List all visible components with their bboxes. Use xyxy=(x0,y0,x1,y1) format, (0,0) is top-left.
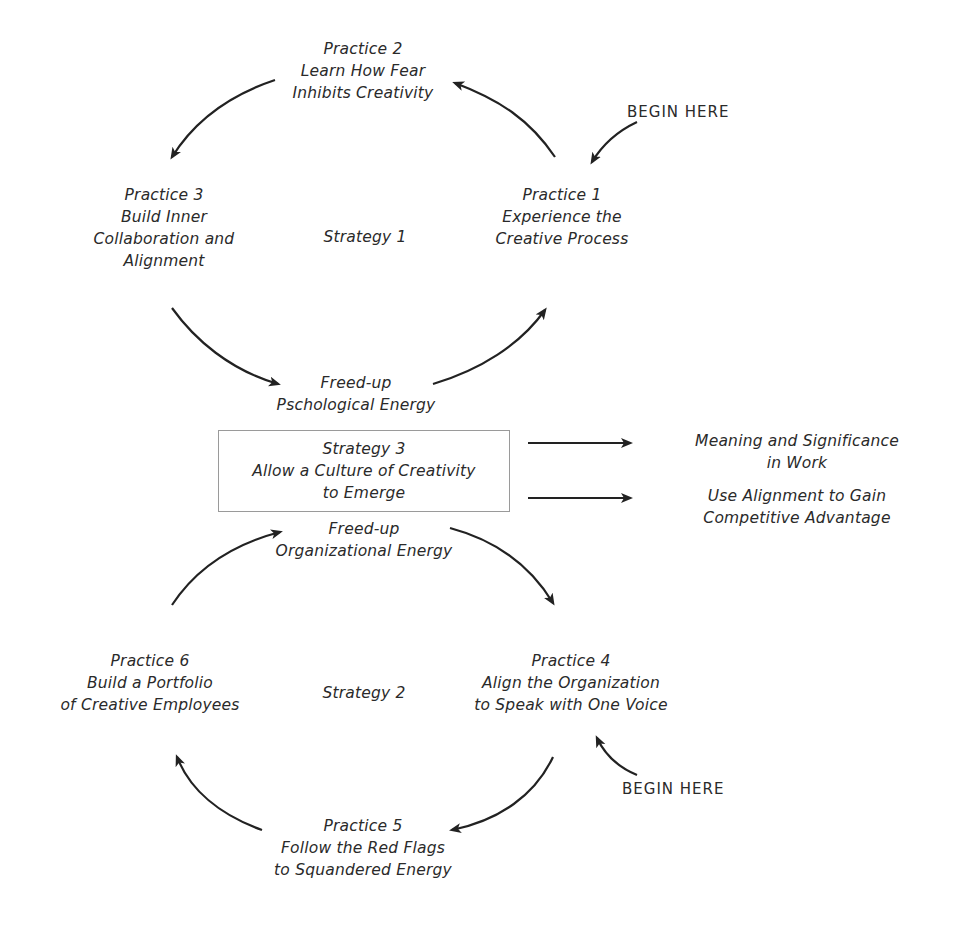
arrow-begin-here-top xyxy=(592,122,637,162)
organizational-energy-label: Freed-up Organizational Energy xyxy=(276,518,453,562)
practice-4-label: Practice 4 Align the Organization to Spe… xyxy=(474,650,668,716)
arrow-energy-to-practice4 xyxy=(450,528,553,603)
arrow-energy-to-practice1 xyxy=(433,310,545,384)
practice-3-label: Practice 3 Build Inner Collaboration and… xyxy=(94,184,235,272)
begin-here-bottom: BEGIN HERE xyxy=(622,780,724,798)
arrow-practice1-to-practice2 xyxy=(455,83,555,157)
arrow-practice5-to-practice6 xyxy=(177,757,262,830)
strategy-2-label: Strategy 2 xyxy=(322,682,405,704)
practice-6-label: Practice 6 Build a Portfolio of Creative… xyxy=(60,650,239,716)
practice-1-label: Practice 1 Experience the Creative Proce… xyxy=(496,184,629,250)
begin-here-top: BEGIN HERE xyxy=(627,103,729,121)
arrow-practice6-to-energy xyxy=(172,532,280,605)
outcome-alignment-label: Use Alignment to Gain Competitive Advant… xyxy=(703,485,890,529)
arrow-practice4-to-practice5 xyxy=(452,757,553,830)
psychological-energy-label: Freed-up Pschological Energy xyxy=(277,372,436,416)
arrow-begin-here-bottom xyxy=(597,738,637,775)
strategy-3-label: Strategy 3 Allow a Culture of Creativity… xyxy=(252,438,475,504)
practice-5-label: Practice 5 Follow the Red Flags to Squan… xyxy=(274,815,452,881)
arrow-practice2-to-practice3 xyxy=(172,80,275,157)
arrow-practice3-to-energy xyxy=(172,308,278,384)
strategy-1-label: Strategy 1 xyxy=(323,226,406,248)
outcome-meaning-label: Meaning and Significance in Work xyxy=(695,430,899,474)
practice-2-label: Practice 2 Learn How Fear Inhibits Creat… xyxy=(293,38,434,104)
